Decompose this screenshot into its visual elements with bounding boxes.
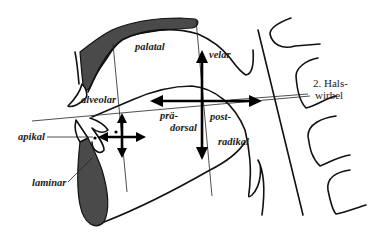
velar-arrowhead (196, 50, 208, 63)
apical-down-arrowhead (117, 148, 127, 158)
label-hals-line2: wirbel (315, 89, 343, 101)
apex-dot (93, 136, 96, 139)
label-post: post- (209, 111, 232, 122)
vertebra-4 (328, 170, 366, 214)
label-radikal: radikal (218, 136, 249, 147)
label-alveolar: alveolar (81, 94, 117, 105)
label-palatal: palatal (134, 41, 165, 52)
label-hals-line1: 2. Hals- (313, 77, 348, 89)
articulation-diagram: palatal velar alveolar prä- dorsal post-… (0, 0, 379, 246)
lower-incisor (75, 120, 88, 142)
label-velar: velar (209, 49, 231, 60)
praedorsal-arrowhead (150, 95, 163, 107)
lip-line (75, 52, 79, 84)
apical-left-arrowhead (98, 132, 108, 142)
pharyngeal-wall (258, 30, 303, 215)
postdorsal-arrowhead (249, 95, 262, 107)
label-prae: prä- (159, 110, 179, 121)
apical-up-arrowhead (117, 113, 127, 123)
label-dorsal: dorsal (170, 122, 197, 133)
vertebra-3 (308, 116, 350, 166)
hard-palate-bone (80, 18, 198, 92)
label-laminar: laminar (32, 177, 67, 188)
vertebra-1 (270, 18, 320, 47)
apical-right-arrowhead (136, 132, 146, 142)
mouth-floor (104, 142, 245, 222)
radikal-arrowhead (196, 147, 208, 160)
diagram-canvas: palatal velar alveolar prä- dorsal post-… (0, 0, 379, 246)
label-apikal: apikal (18, 131, 45, 142)
velar-reference-line (196, 20, 212, 196)
blade-dot (114, 130, 117, 133)
